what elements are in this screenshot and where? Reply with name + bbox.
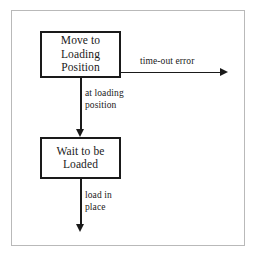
node-move-to-loading-position-label: Move to Loading Position [61, 34, 100, 75]
edge-load-in-place-line [80, 179, 82, 225]
edge-timeout-error-arrowhead [220, 68, 228, 76]
diagram-canvas: Move to Loading Position time-out error … [0, 0, 258, 254]
node-move-to-loading-position[interactable]: Move to Loading Position [40, 31, 121, 78]
edge-load-in-place-arrowhead [76, 224, 84, 232]
node-wait-to-be-loaded-label: Wait to be Loaded [57, 145, 105, 172]
node-wait-to-be-loaded[interactable]: Wait to be Loaded [40, 137, 121, 179]
edge-at-loading-position-line [80, 78, 82, 130]
edge-timeout-error-line [121, 72, 221, 74]
edge-load-in-place-label: load in place [85, 190, 112, 213]
edge-timeout-error-label: time-out error [140, 56, 194, 68]
edge-at-loading-position-arrowhead [76, 129, 84, 137]
edge-at-loading-position-label: at loading position [85, 88, 124, 111]
